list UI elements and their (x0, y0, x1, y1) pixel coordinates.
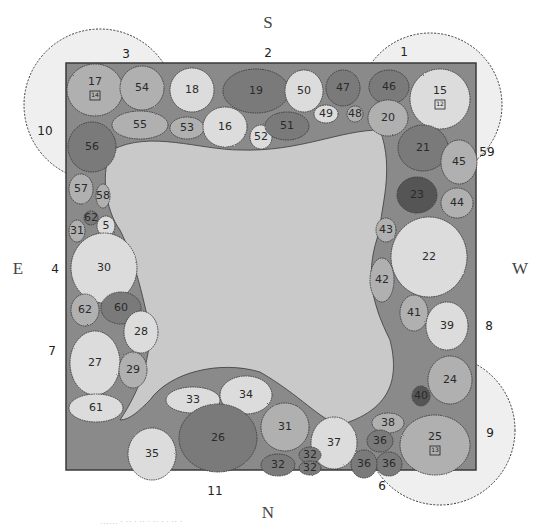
plant-16[interactable]: 16 (203, 107, 247, 147)
plant-26[interactable]: 26 (179, 404, 257, 472)
feature-label-8: 8 (485, 319, 493, 333)
plant-30[interactable]: 30 (71, 233, 137, 303)
plant-label: 62 (84, 211, 98, 224)
plant-label: 19 (249, 84, 263, 97)
plant-29[interactable]: 29 (119, 352, 147, 388)
plant-label: 15 (433, 84, 447, 97)
feature-label-9: 9 (486, 426, 494, 440)
plant-label: 32 (271, 458, 285, 471)
plant-label: 48 (348, 107, 362, 120)
plant-label: 34 (239, 388, 253, 401)
plant-56[interactable]: 56 (68, 122, 116, 172)
plant-51[interactable]: 51 (265, 112, 309, 140)
plant-36[interactable]: 36 (367, 430, 393, 452)
plant-label: 47 (336, 81, 350, 94)
plant-57[interactable]: 57 (69, 174, 93, 204)
plant-label: 36 (382, 457, 396, 470)
feature-label-11: 11 (207, 484, 222, 498)
plant-36[interactable]: 36 (351, 450, 377, 478)
plant-label: 50 (297, 84, 311, 97)
feature-label-2: 2 (264, 46, 272, 60)
plant-label: 52 (254, 130, 268, 143)
plant-label: 41 (407, 306, 421, 319)
feature-label-7: 7 (48, 344, 56, 358)
plant-label: 49 (319, 107, 333, 120)
feature-label-6: 6 (378, 479, 386, 493)
feature-label-10: 10 (37, 124, 52, 138)
plant-44[interactable]: 44 (441, 188, 473, 218)
plant-label: 35 (145, 447, 159, 460)
plant-21[interactable]: 21 (398, 125, 448, 171)
plant-46[interactable]: 46 (369, 70, 409, 104)
plant-49[interactable]: 49 (314, 105, 338, 123)
plant-label: 33 (186, 393, 200, 406)
plant-label: 24 (443, 373, 457, 386)
plant-55[interactable]: 55 (112, 111, 168, 139)
plant-label: 22 (422, 250, 436, 263)
plant-label: 40 (414, 389, 428, 402)
plant-35[interactable]: 35 (128, 428, 176, 480)
plant-43[interactable]: 43 (376, 218, 396, 242)
plant-label: 32 (303, 461, 317, 474)
plant-label: 28 (134, 325, 148, 338)
plant-20[interactable]: 20 (368, 100, 408, 136)
plant-label: 36 (357, 457, 371, 470)
plant-label: 25 (428, 430, 442, 443)
plant-58[interactable]: 58 (96, 184, 110, 208)
plant-24[interactable]: 24 (428, 356, 472, 404)
plant-19[interactable]: 19 (223, 69, 289, 113)
compass-south: S (263, 13, 272, 32)
plant-label: 43 (379, 223, 393, 236)
plant-32[interactable]: 32 (299, 461, 321, 475)
plant-label: 21 (416, 141, 430, 154)
plant-22[interactable]: 22 (391, 217, 467, 297)
plant-37[interactable]: 37 (311, 417, 357, 469)
plant-31[interactable]: 31 (69, 220, 85, 242)
plant-25[interactable]: 2513 (400, 415, 470, 475)
plant-label: 51 (280, 119, 294, 132)
plant-61[interactable]: 61 (69, 394, 123, 422)
plant-28[interactable]: 28 (124, 311, 158, 353)
plant-label: 54 (135, 81, 149, 94)
plant-62[interactable]: 62 (84, 211, 98, 225)
plant-label: 44 (450, 196, 464, 209)
plant-label: 17 (88, 75, 102, 88)
plant-label: 58 (96, 189, 110, 202)
plant-label: 45 (452, 155, 466, 168)
feature-label-3: 3 (122, 47, 130, 61)
plant-36[interactable]: 36 (376, 452, 402, 476)
plant-42[interactable]: 42 (370, 258, 394, 302)
plant-label: 38 (381, 416, 395, 429)
plant-54[interactable]: 54 (120, 66, 164, 110)
plant-label: 53 (180, 121, 194, 134)
plant-27[interactable]: 27 (70, 331, 120, 395)
plant-label: 20 (381, 111, 395, 124)
feature-label-59: 59 (479, 145, 494, 159)
plant-32[interactable]: 32 (261, 454, 295, 476)
plant-23[interactable]: 23 (397, 177, 437, 213)
garden-plan: 1714545556185316521950514947484615122021… (0, 0, 545, 530)
plant-45[interactable]: 45 (441, 140, 477, 184)
plant-label: 29 (126, 363, 140, 376)
plant-53[interactable]: 53 (170, 117, 204, 139)
badge-number: 14 (91, 91, 99, 98)
plant-47[interactable]: 47 (326, 70, 360, 106)
plant-40[interactable]: 40 (412, 386, 430, 406)
feature-label-4: 4 (51, 262, 59, 276)
plant-39[interactable]: 39 (426, 302, 468, 350)
plant-18[interactable]: 18 (170, 68, 214, 112)
plant-label: 31 (278, 420, 292, 433)
plant-50[interactable]: 50 (285, 70, 323, 112)
plant-15[interactable]: 1512 (410, 69, 470, 129)
plant-label: 16 (218, 120, 232, 133)
plant-label: 62 (78, 303, 92, 316)
plant-17[interactable]: 1714 (67, 64, 123, 116)
plant-label: 60 (114, 301, 128, 314)
plant-41[interactable]: 41 (400, 295, 428, 331)
plant-48[interactable]: 48 (347, 106, 363, 122)
plant-31[interactable]: 31 (261, 403, 309, 451)
plant-62[interactable]: 62 (71, 294, 99, 326)
plant-label: 57 (74, 182, 88, 195)
plant-label: 5 (103, 219, 110, 232)
plant-label: 26 (211, 431, 225, 444)
